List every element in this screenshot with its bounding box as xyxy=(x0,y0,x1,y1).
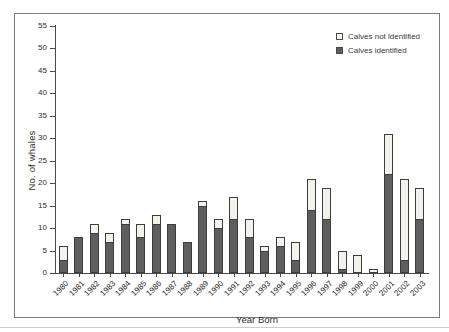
legend-item-identified: Calves identified xyxy=(336,46,420,55)
x-tick-mark xyxy=(420,274,421,277)
x-tick-mark xyxy=(172,274,173,277)
y-tick-mark xyxy=(50,48,55,49)
y-axis-line xyxy=(55,25,56,274)
y-tick-mark xyxy=(50,116,55,117)
bar-not-identified-2003 xyxy=(415,188,424,221)
bar-not-identified-1997 xyxy=(322,188,331,221)
bar-identified-1988 xyxy=(183,242,192,274)
bar-identified-1995 xyxy=(291,260,300,274)
x-tick-mark xyxy=(203,274,204,277)
x-tick-mark xyxy=(156,274,157,277)
x-tick-mark xyxy=(79,274,80,277)
x-tick-mark xyxy=(280,274,281,277)
bar-identified-1984 xyxy=(121,224,130,274)
bar-not-identified-1992 xyxy=(245,219,254,238)
bar-identified-1996 xyxy=(307,210,316,273)
bar-not-identified-1985 xyxy=(136,224,145,239)
y-tick-mark xyxy=(50,26,55,27)
x-tick-mark xyxy=(249,274,250,277)
y-tick-label: 45 xyxy=(27,66,47,76)
x-tick-mark xyxy=(327,274,328,277)
x-axis-title: Year Born xyxy=(70,314,444,325)
legend-swatch-identified-icon xyxy=(336,47,343,54)
bar-identified-1997 xyxy=(322,219,331,273)
y-tick-label: 5 xyxy=(27,246,47,256)
x-tick-mark xyxy=(187,274,188,277)
x-tick-mark xyxy=(63,274,64,277)
bar-identified-1982 xyxy=(90,233,99,274)
y-tick-mark xyxy=(50,93,55,94)
bar-identified-1985 xyxy=(136,237,145,273)
y-tick-label: 55 xyxy=(27,21,47,31)
x-tick-mark xyxy=(342,274,343,277)
y-tick-mark xyxy=(50,138,55,139)
y-tick-label: 20 xyxy=(27,178,47,188)
legend-swatch-not-identified-icon xyxy=(336,33,343,40)
y-tick-mark xyxy=(50,228,55,229)
x-tick-mark xyxy=(373,274,374,277)
page-edge-line xyxy=(0,327,449,328)
bar-identified-1991 xyxy=(229,219,238,273)
x-tick-mark xyxy=(404,274,405,277)
x-tick-mark xyxy=(234,274,235,277)
bar-identified-1986 xyxy=(152,224,161,274)
bar-not-identified-1995 xyxy=(291,242,300,261)
bar-not-identified-1982 xyxy=(90,224,99,234)
y-tick-mark xyxy=(50,183,55,184)
bar-not-identified-2002 xyxy=(400,179,409,261)
bar-not-identified-1980 xyxy=(59,246,68,261)
bar-not-identified-1994 xyxy=(276,237,285,247)
bar-not-identified-1983 xyxy=(105,233,114,243)
bar-not-identified-2001 xyxy=(384,134,393,176)
bar-identified-2001 xyxy=(384,174,393,273)
bar-identified-1993 xyxy=(260,251,269,274)
x-tick-mark xyxy=(125,274,126,277)
bar-identified-1994 xyxy=(276,246,285,273)
x-tick-mark xyxy=(296,274,297,277)
y-tick-label: 25 xyxy=(27,156,47,166)
y-tick-mark xyxy=(50,206,55,207)
y-tick-mark xyxy=(50,273,55,274)
y-tick-mark xyxy=(50,251,55,252)
bar-identified-1980 xyxy=(59,260,68,274)
bar-identified-1981 xyxy=(74,237,83,273)
y-tick-label: 15 xyxy=(27,201,47,211)
legend-label-identified: Calves identified xyxy=(348,46,407,55)
y-tick-label: 0 xyxy=(27,268,47,278)
bar-not-identified-1990 xyxy=(214,219,223,229)
bar-not-identified-1991 xyxy=(229,197,238,221)
x-tick-mark xyxy=(110,274,111,277)
bar-identified-1983 xyxy=(105,242,114,274)
bar-identified-1989 xyxy=(198,206,207,274)
legend-item-not-identified: Calves not identified xyxy=(336,32,420,41)
x-tick-mark xyxy=(141,274,142,277)
y-tick-label: 35 xyxy=(27,111,47,121)
bar-identified-2003 xyxy=(415,219,424,273)
bar-not-identified-1993 xyxy=(260,246,269,252)
x-tick-mark xyxy=(94,274,95,277)
y-tick-mark xyxy=(50,161,55,162)
bar-not-identified-1989 xyxy=(198,201,207,207)
x-tick-mark xyxy=(265,274,266,277)
bar-identified-1990 xyxy=(214,228,223,273)
y-tick-mark xyxy=(50,71,55,72)
x-tick-mark xyxy=(218,274,219,277)
y-tick-label: 10 xyxy=(27,223,47,233)
bar-not-identified-1999 xyxy=(353,255,362,273)
x-tick-mark xyxy=(389,274,390,277)
y-tick-label: 40 xyxy=(27,88,47,98)
y-tick-label: 30 xyxy=(27,133,47,143)
bar-not-identified-2000 xyxy=(369,269,378,274)
bar-not-identified-1996 xyxy=(307,179,316,212)
y-tick-label: 50 xyxy=(27,43,47,53)
legend: Calves not identified Calves identified xyxy=(336,32,420,60)
bar-not-identified-1998 xyxy=(338,251,347,270)
x-tick-mark xyxy=(358,274,359,277)
bar-identified-1987 xyxy=(167,224,176,274)
bar-not-identified-1986 xyxy=(152,215,161,225)
x-tick-mark xyxy=(311,274,312,277)
bar-identified-2002 xyxy=(400,260,409,274)
legend-label-not-identified: Calves not identified xyxy=(348,32,420,41)
page: { "chart_data": { "type": "bar", "stacke… xyxy=(0,0,449,332)
bar-identified-1992 xyxy=(245,237,254,273)
